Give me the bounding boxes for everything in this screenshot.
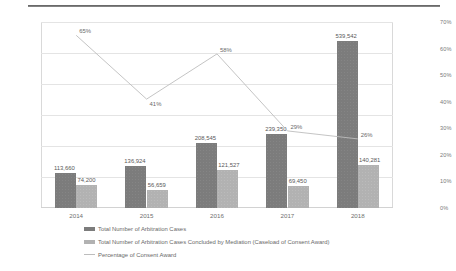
line-value-label: 29% bbox=[290, 124, 302, 130]
line-value-label: 65% bbox=[79, 28, 91, 34]
legend-item[interactable]: Total Number of Arbitration Cases Conclu… bbox=[84, 235, 414, 248]
legend-swatch-icon bbox=[84, 254, 95, 255]
percentage-line-series bbox=[41, 22, 393, 208]
x-axis-tick-label: 2014 bbox=[46, 212, 106, 219]
right-axis-tick-label: 10% bbox=[440, 178, 456, 184]
x-axis-tick-label: 2016 bbox=[187, 212, 247, 219]
right-axis-tick-label: 0% bbox=[440, 205, 456, 211]
header-divider bbox=[28, 5, 440, 7]
x-axis-tick-label: 2017 bbox=[257, 212, 317, 219]
legend-item[interactable]: Total Number of Arbitration Cases bbox=[84, 222, 414, 235]
line-value-label: 58% bbox=[220, 47, 232, 53]
legend-item-label: Total Number of Arbitration Cases Conclu… bbox=[98, 239, 329, 245]
right-axis-tick-label: 60% bbox=[440, 46, 456, 52]
right-axis-tick-label: 70% bbox=[440, 19, 456, 25]
right-axis-tick-label: 20% bbox=[440, 152, 456, 158]
legend-swatch-icon bbox=[84, 227, 95, 231]
legend-item[interactable]: Percentage of Consent Award bbox=[84, 248, 414, 261]
right-axis-tick-label: 30% bbox=[440, 125, 456, 131]
right-axis-tick-label: 40% bbox=[440, 99, 456, 105]
right-axis-tick-label: 50% bbox=[440, 72, 456, 78]
x-axis-tick-label: 2015 bbox=[117, 212, 177, 219]
legend-swatch-icon bbox=[84, 240, 95, 244]
legend-item-label: Total Number of Arbitration Cases bbox=[98, 226, 186, 232]
plot-area: 0100,000200,000300,000400,000500,000600,… bbox=[41, 22, 393, 208]
legend-item-label: Percentage of Consent Award bbox=[98, 252, 176, 258]
x-axis-tick-label: 2018 bbox=[328, 212, 388, 219]
line-value-label: 26% bbox=[361, 132, 373, 138]
line-value-label: 41% bbox=[150, 101, 162, 107]
chart-legend: Total Number of Arbitration CasesTotal N… bbox=[84, 222, 414, 261]
